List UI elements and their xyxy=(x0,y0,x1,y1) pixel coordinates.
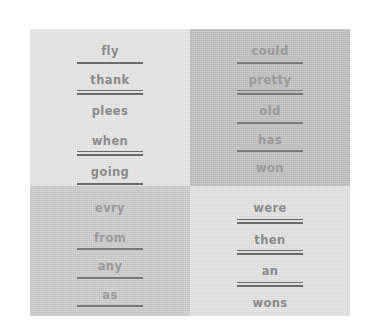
word-entry[interactable]: wons xyxy=(234,298,306,317)
word-entry[interactable]: as xyxy=(74,290,146,308)
word-entry[interactable]: any xyxy=(74,261,146,279)
word-entry[interactable]: pretty xyxy=(234,75,306,96)
underline-rule-bottom xyxy=(237,93,303,95)
word-label: fly xyxy=(101,46,119,58)
underline-rule xyxy=(77,183,143,185)
word-list: could pretty old has won xyxy=(234,46,306,186)
underline-rule xyxy=(77,305,143,307)
word-label: were xyxy=(253,203,287,215)
underline-rule xyxy=(77,62,143,64)
underline-rule-top xyxy=(237,90,303,91)
underline-rule-bottom xyxy=(237,285,303,287)
word-label: going xyxy=(91,167,130,179)
word-entry[interactable]: evry xyxy=(74,203,146,222)
underline-rule xyxy=(77,248,143,250)
word-column-top-right: could pretty old has won xyxy=(234,29,306,186)
word-label: plees xyxy=(92,106,129,118)
underline-rule-top xyxy=(77,151,143,152)
underline-rule-top xyxy=(237,282,303,283)
underline-rule-top xyxy=(237,219,303,220)
word-label: thank xyxy=(90,75,129,87)
word-column-bottom-left: evry from any as xyxy=(74,186,146,316)
underline-rule-top xyxy=(237,250,303,251)
word-entry[interactable]: old xyxy=(234,106,306,124)
word-grid-worksheet: fly thank plees when g xyxy=(30,29,350,316)
word-entry[interactable]: an xyxy=(234,266,306,287)
word-list: were then an wons xyxy=(234,203,306,316)
underline-rule xyxy=(237,122,303,124)
underline-rule xyxy=(237,62,303,64)
underline-rule-bottom xyxy=(237,253,303,255)
word-entry[interactable]: fly xyxy=(74,46,146,64)
word-label: when xyxy=(92,136,128,148)
word-entry[interactable]: when xyxy=(74,136,146,157)
word-label: pretty xyxy=(249,75,292,87)
word-entry[interactable]: won xyxy=(234,163,306,182)
word-entry[interactable]: from xyxy=(74,233,146,251)
word-column-bottom-right: were then an wons xyxy=(234,186,306,316)
word-label: wons xyxy=(252,298,287,310)
word-label: any xyxy=(98,261,123,273)
word-entry[interactable]: then xyxy=(234,235,306,256)
underline-rule-bottom xyxy=(77,154,143,156)
word-label: as xyxy=(102,290,117,302)
underline-rule-bottom xyxy=(77,93,143,95)
underline-rule xyxy=(77,277,143,279)
word-label: then xyxy=(254,235,285,247)
word-list: fly thank plees when g xyxy=(74,46,146,186)
word-entry[interactable]: plees xyxy=(74,106,146,125)
word-label: evry xyxy=(95,203,125,215)
word-label: from xyxy=(94,233,126,245)
word-label: an xyxy=(262,266,279,278)
underline-rule xyxy=(237,150,303,152)
word-label: old xyxy=(259,106,280,118)
word-entry[interactable]: has xyxy=(234,135,306,153)
quadrant-bottom-left: evry from any as xyxy=(30,186,190,316)
word-entry[interactable]: were xyxy=(234,203,306,224)
word-label: could xyxy=(251,46,288,58)
word-label: has xyxy=(258,135,282,147)
quadrant-top-left: fly thank plees when g xyxy=(30,29,190,186)
quadrant-bottom-right: were then an wons xyxy=(190,186,350,316)
word-entry[interactable]: going xyxy=(74,167,146,185)
underline-rule-bottom xyxy=(237,222,303,224)
quadrant-top-right: could pretty old has won xyxy=(190,29,350,186)
word-column-top-left: fly thank plees when g xyxy=(74,29,146,186)
word-entry[interactable]: could xyxy=(234,46,306,64)
word-entry[interactable]: thank xyxy=(74,75,146,96)
word-label: won xyxy=(256,163,284,175)
underline-rule-top xyxy=(77,90,143,91)
word-list: evry from any as xyxy=(74,203,146,316)
